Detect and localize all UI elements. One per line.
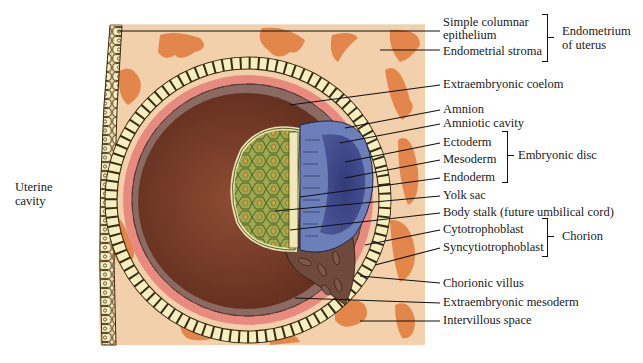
label-extraembryonic-mesoderm: Extraembryonic mesoderm [443,296,579,309]
label-endometrial-stroma: Endometrial stroma [443,45,542,58]
bracket-tick-embryonic-disc [508,155,514,156]
label-amniotic-cavity: Amniotic cavity [443,117,524,130]
label-line: of uterus [562,38,631,52]
bracket-embryonic-disc [502,131,508,183]
label-uterine-cavity: Uterine cavity [15,180,52,208]
bracket-chorion [542,218,548,257]
label-line: cavity [15,194,52,208]
bracket-endometrium [542,14,548,62]
label-line: Uterine [15,180,52,194]
label-yolk-sac: Yolk sac [443,189,486,202]
label-line: epithelium [443,29,529,42]
label-simple-columnar-epithelium: Simple columnar epithelium [443,16,529,42]
group-label-embryonic-disc: Embryonic disc [518,148,597,162]
label-cytotrophoblast: Cytotrophoblast [443,223,524,236]
group-label-chorion: Chorion [562,229,603,243]
label-intervillous-space: Intervillous space [443,314,532,327]
bracket-tick-endometrium [548,37,554,38]
label-ectoderm: Ectoderm [443,136,492,149]
label-line: Endometrium [562,24,631,38]
label-amnion: Amnion [443,103,484,116]
group-label-endometrium: Endometrium of uterus [562,24,631,52]
label-mesoderm: Mesoderm [443,153,496,166]
label-syncytiotrophoblast: Syncytiotrophoblast [443,241,544,254]
label-chorionic-villus: Chorionic villus [443,277,524,290]
endoderm-layer [289,132,298,248]
label-body-stalk: Body stalk (future umbilical cord) [443,206,614,219]
bracket-tick-chorion [548,236,554,237]
label-extraembryonic-coelom: Extraembryonic coelom [443,78,563,91]
label-endoderm: Endoderm [443,171,495,184]
